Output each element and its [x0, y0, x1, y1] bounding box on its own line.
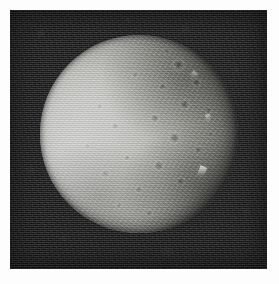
page-canvas	[0, 0, 279, 284]
moon-limb-edge	[40, 35, 238, 233]
moon-disk	[40, 35, 238, 233]
photograph-frame	[10, 10, 267, 269]
